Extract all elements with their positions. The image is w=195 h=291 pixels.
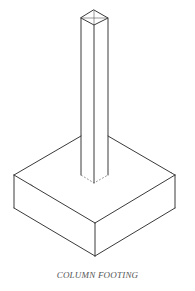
column (81, 10, 108, 183)
slab-top-back-left-edge (14, 136, 81, 175)
column-top-face (81, 10, 108, 25)
slab-top-front-left-edge (14, 175, 95, 223)
slab-top-back-right-edge (108, 136, 175, 175)
column-footing-drawing (0, 0, 195, 291)
slab-bottom-right-edge (95, 208, 175, 256)
slab-top-front-right-edge (95, 175, 175, 223)
figure-caption: COLUMN FOOTING (0, 270, 195, 280)
slab-bottom-left-edge (14, 208, 95, 256)
